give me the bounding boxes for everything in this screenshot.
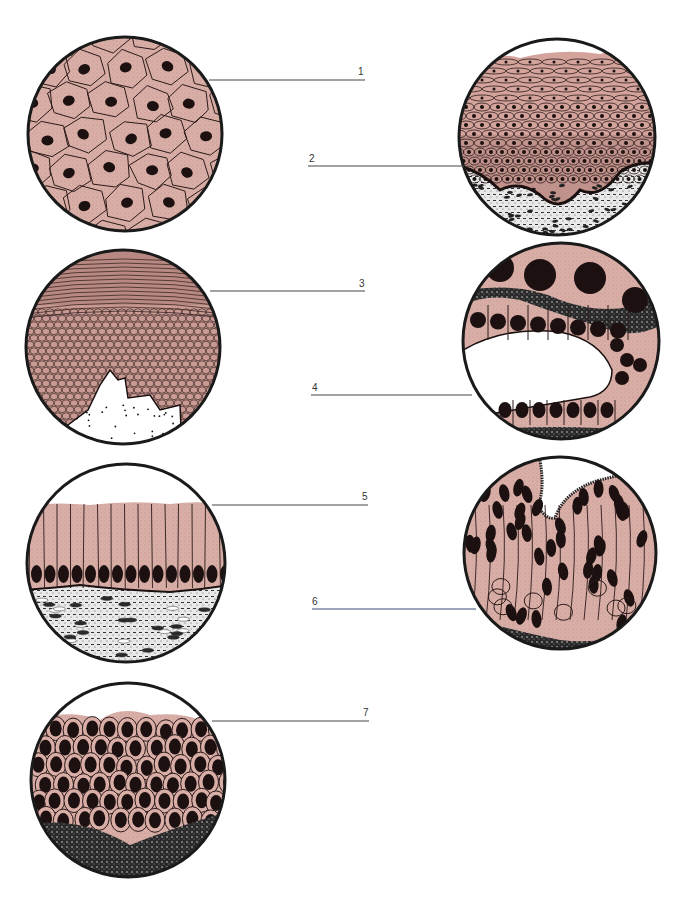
nucleus	[544, 141, 548, 145]
fibroblast-nucleus	[459, 204, 465, 207]
fibroblast-nucleus	[486, 212, 492, 215]
label-number-1: 1	[358, 66, 364, 77]
nucleus	[478, 150, 482, 154]
cell-outline	[6, 218, 49, 256]
stroma-dot	[165, 412, 167, 414]
nucleus	[608, 105, 612, 109]
stroma-cell	[36, 634, 48, 638]
nucleus	[539, 159, 543, 163]
stroma-dot	[171, 416, 173, 418]
stroma-dot	[159, 415, 161, 417]
cell-outline	[186, 445, 194, 451]
nucleus	[221, 93, 234, 105]
nucleus	[576, 141, 580, 145]
nucleus	[601, 402, 614, 418]
cell-outline	[206, 426, 214, 432]
stroma-cell	[142, 648, 154, 652]
fibroblast-nucleus	[505, 230, 512, 234]
nucleus	[656, 123, 660, 127]
nucleus	[490, 314, 506, 330]
nucleus	[616, 114, 620, 118]
nucleus	[577, 150, 581, 154]
nucleus	[625, 97, 628, 100]
cell-outline	[22, 426, 30, 432]
fibroblast-nucleus	[644, 195, 650, 199]
nucleus	[242, 61, 257, 76]
nucleus	[608, 141, 612, 145]
cell-outline	[38, 426, 46, 432]
stroma-dot	[154, 415, 156, 417]
cell-outline	[202, 406, 210, 412]
stroma-cell	[49, 638, 61, 642]
nucleus	[85, 757, 97, 773]
stroma-dot	[125, 415, 127, 417]
nucleus	[568, 114, 572, 118]
cell-outline	[209, 222, 248, 257]
stroma-cell	[116, 653, 128, 657]
nucleus	[638, 177, 642, 181]
nucleus	[243, 127, 256, 138]
cell-outline	[38, 413, 46, 419]
nucleus	[121, 794, 133, 810]
nucleus	[481, 79, 484, 82]
nucleus	[181, 27, 195, 40]
nucleus	[456, 114, 460, 118]
cell-outline	[50, 419, 58, 425]
fibroblast-nucleus	[654, 206, 661, 211]
stroma-cell	[125, 618, 137, 622]
cell-outline	[66, 432, 74, 438]
nucleus	[613, 70, 616, 73]
label-number-5: 5	[362, 491, 368, 502]
cell-outline	[158, 439, 166, 445]
nucleus	[222, 28, 236, 41]
nucleus	[661, 88, 664, 91]
cell-outline	[138, 445, 146, 451]
nucleus	[533, 168, 537, 172]
panel-3-keratinized-epithelium	[20, 245, 230, 455]
nucleus	[504, 114, 508, 118]
nucleus	[583, 177, 587, 181]
nucleus	[511, 168, 515, 172]
cell-outline	[218, 393, 226, 399]
cell-outline	[42, 419, 50, 425]
cell-outline	[638, 59, 662, 65]
nucleus	[104, 721, 116, 737]
nucleus	[512, 105, 516, 109]
cell-outline	[194, 445, 202, 451]
stroma-dot	[101, 411, 103, 413]
nucleus	[605, 177, 609, 181]
fibroblast-nucleus	[638, 210, 645, 214]
nucleus	[576, 105, 580, 109]
nucleus	[153, 565, 164, 583]
cell-outline	[26, 432, 34, 438]
nucleus	[221, 811, 233, 827]
nucleus	[506, 159, 510, 163]
nucleus	[121, 722, 133, 738]
fibroblast-nucleus	[632, 204, 639, 209]
nucleus	[59, 739, 71, 755]
cell-outline	[42, 432, 50, 438]
nucleus	[643, 150, 647, 154]
nucleus	[20, 229, 34, 242]
stroma-dot	[172, 423, 174, 425]
nucleus	[505, 79, 508, 82]
nucleus	[590, 321, 606, 337]
nucleus	[637, 70, 640, 73]
nucleus	[627, 159, 631, 163]
cell-outline	[26, 406, 34, 412]
cell-outline	[169, 16, 210, 54]
nucleus	[565, 70, 568, 73]
cell-outline	[182, 426, 190, 432]
nucleus	[473, 177, 477, 181]
stroma-dot	[151, 431, 153, 433]
cell-outline	[223, 183, 268, 221]
cell-outline	[58, 445, 66, 451]
panel-6-pseudostratified-columnar	[460, 455, 665, 660]
cell-outline	[174, 439, 182, 445]
nucleus	[553, 97, 556, 100]
cell-outline	[22, 309, 30, 315]
nucleus	[66, 231, 81, 245]
cell-outline	[98, 445, 106, 451]
nucleus	[608, 123, 612, 127]
cell-outline	[30, 426, 38, 432]
